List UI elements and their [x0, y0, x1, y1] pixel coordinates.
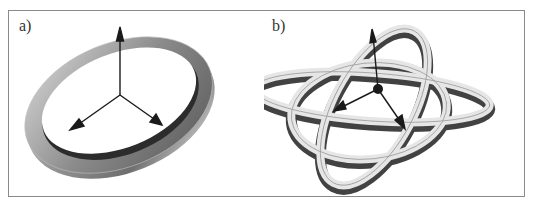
figure-frame: a) — [8, 10, 525, 197]
panel-a: a) — [9, 11, 264, 196]
knot-illustration — [264, 11, 526, 198]
ring-illustration — [9, 11, 264, 198]
knot-center-node-icon — [373, 84, 383, 94]
panel-b: b) — [264, 11, 526, 196]
